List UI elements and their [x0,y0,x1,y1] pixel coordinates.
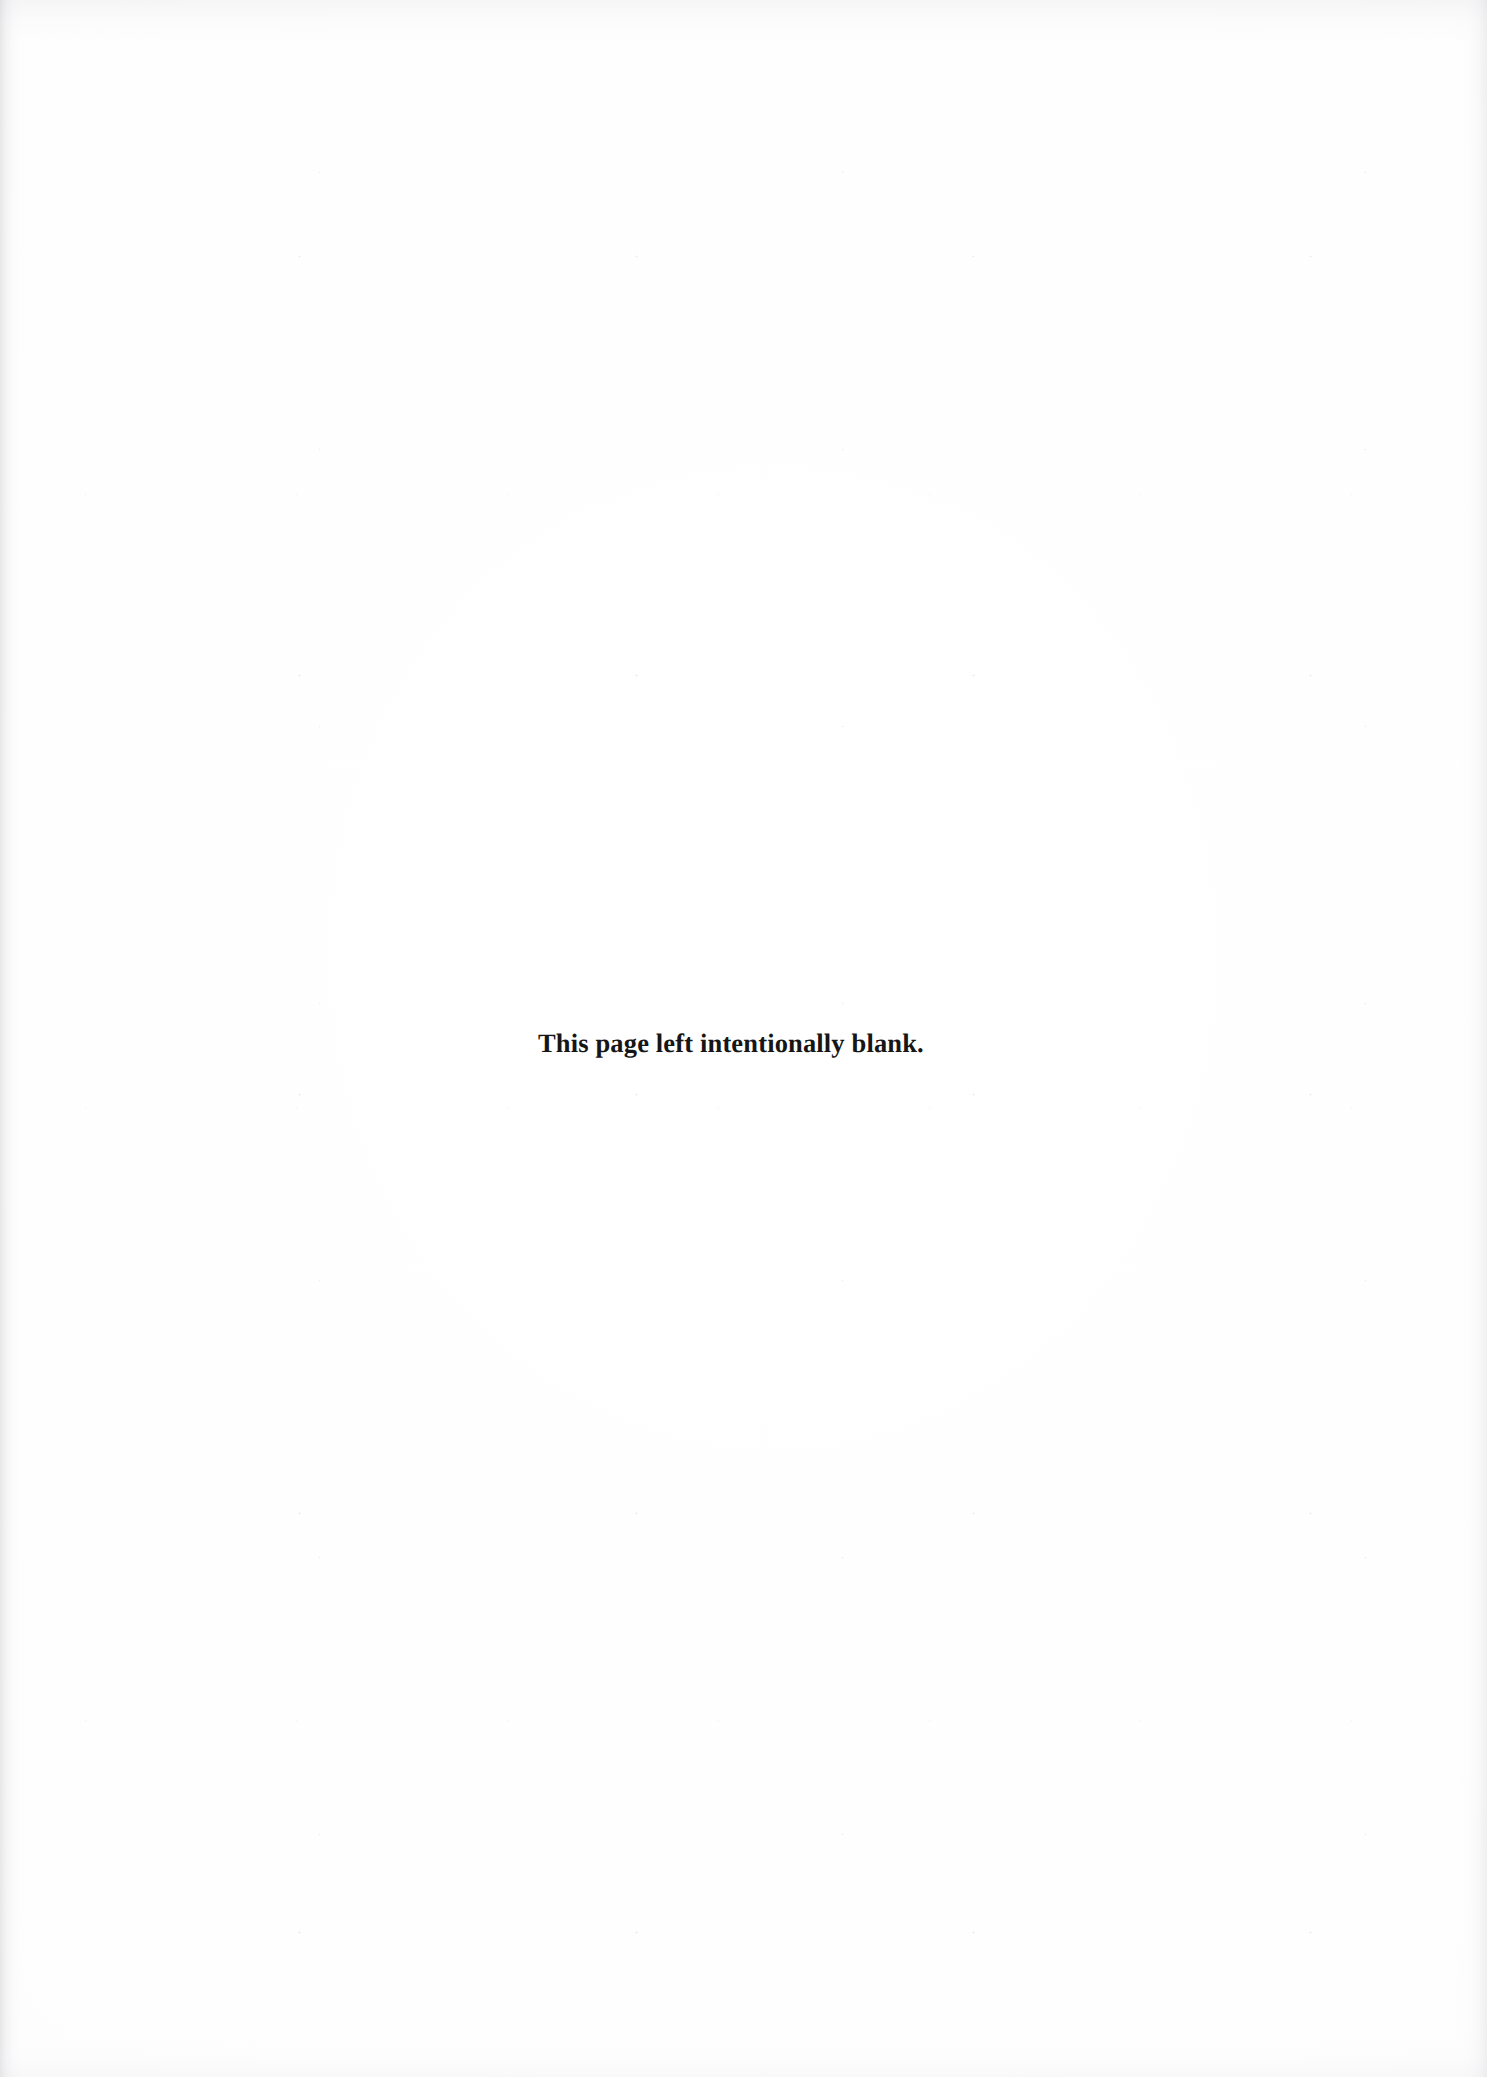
scan-edge-bottom-noise [0,2037,1487,2077]
scanned-page: This page left intentionally blank. [0,0,1487,2077]
scan-edge-right-shadow [1457,0,1487,2077]
scan-edge-left-shadow [0,0,26,2077]
scan-edge-top-noise [0,0,1487,46]
blank-page-notice: This page left intentionally blank. [538,1028,998,1058]
